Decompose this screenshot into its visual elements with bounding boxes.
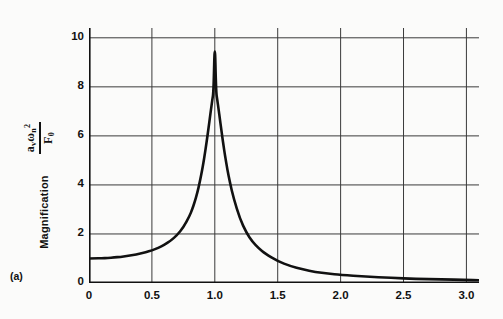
x-tick-label: 1.0	[195, 289, 235, 301]
y-axis-ticks: 0246810	[60, 0, 84, 319]
x-axis-ticks: 00.51.01.52.02.53.0	[89, 289, 479, 307]
x-tick-label: 2.0	[321, 289, 361, 301]
fraction-denominator: F0	[42, 130, 56, 146]
magnification-figure: avωn2 F0 Magnification 0246810 00.51.01.…	[0, 0, 503, 319]
y-tick-label: 6	[62, 128, 84, 140]
y-axis-title-text: Magnification	[38, 175, 50, 249]
plot-area	[89, 28, 479, 283]
numerator-a: a	[23, 146, 37, 152]
y-tick-label: 2	[62, 226, 84, 238]
magnification-curve	[89, 51, 479, 280]
plot-svg	[89, 28, 479, 283]
fraction-numerator: avωn2	[24, 122, 38, 154]
x-tick-label: 0.5	[132, 289, 172, 301]
x-tick-label: 3.0	[446, 289, 486, 301]
numerator-omega-superscript: 2	[23, 124, 32, 128]
y-tick-label: 10	[62, 30, 84, 42]
axis-lines	[89, 28, 479, 283]
numerator-omega: ω	[23, 133, 37, 142]
denominator-subscript: 0	[47, 132, 56, 136]
gridlines	[89, 28, 479, 283]
y-tick-label: 0	[62, 275, 84, 287]
denominator-F: F	[41, 136, 55, 144]
y-tick-label: 4	[62, 177, 84, 189]
x-tick-label: 1.5	[258, 289, 298, 301]
numerator-omega-subscript: n	[29, 128, 38, 133]
x-tick-label: 0	[69, 289, 109, 301]
panel-label: (a)	[10, 270, 23, 282]
x-tick-label: 2.5	[384, 289, 424, 301]
y-axis-title: Magnification	[36, 157, 52, 267]
y-tick-label: 8	[62, 79, 84, 91]
numerator-a-subscript: v	[29, 142, 38, 146]
